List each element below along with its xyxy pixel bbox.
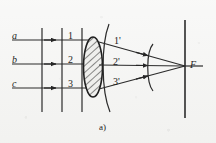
ray-1-prime-label: 1' bbox=[114, 36, 121, 46]
incident-ray-arrowheads bbox=[44, 40, 56, 88]
ray-2-prime-label: 2' bbox=[113, 57, 120, 67]
wavefront-1-label: 1 bbox=[68, 31, 73, 41]
optics-figure: a b c 1 2 3 1' 2' 3' F a) bbox=[0, 0, 216, 143]
spherical-wavefront-2 bbox=[148, 44, 153, 91]
ray-1-prime-arrow bbox=[136, 52, 148, 55]
spherical-wavefronts-group bbox=[103, 24, 153, 112]
wavefront-2-label: 2 bbox=[68, 55, 73, 65]
ray-c-label: c bbox=[12, 79, 16, 89]
spherical-wavefront-1 bbox=[103, 24, 110, 112]
ray-a-label: a bbox=[12, 31, 17, 41]
converging-lens bbox=[84, 37, 103, 97]
focal-point-label: F bbox=[190, 60, 196, 70]
optics-diagram-canvas bbox=[0, 0, 216, 143]
ray-3-prime-label: 3' bbox=[113, 77, 120, 87]
wavefront-3-label: 3 bbox=[68, 79, 73, 89]
ray-3-prime-arrow bbox=[136, 76, 148, 79]
refracted-ray-arrowheads bbox=[136, 52, 148, 79]
ray-b-label: b bbox=[12, 55, 17, 65]
figure-caption: a) bbox=[99, 122, 106, 132]
